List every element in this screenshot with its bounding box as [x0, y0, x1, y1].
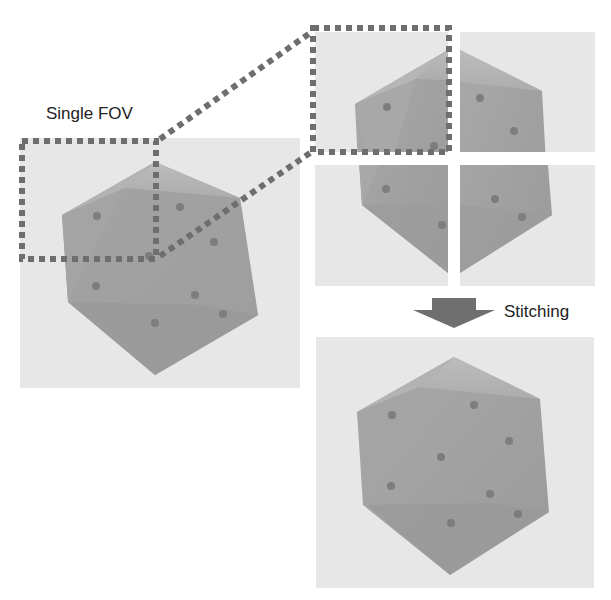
connector-top	[160, 33, 310, 139]
down-arrow-icon	[413, 298, 495, 328]
single-fov-label: Single FOV	[46, 104, 133, 124]
stitched-image	[316, 337, 594, 588]
stitching-label: Stitching	[504, 302, 569, 322]
single-fov-image	[20, 138, 300, 388]
stitching-diagram	[0, 0, 611, 600]
fov-tiles	[315, 32, 595, 286]
